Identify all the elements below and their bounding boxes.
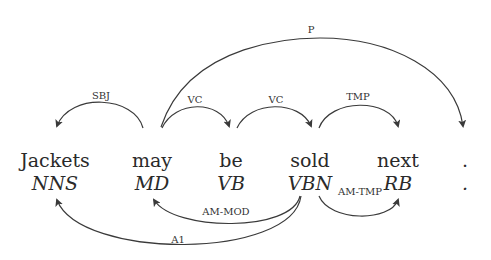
arc-label-sbj: SBJ <box>92 90 110 101</box>
arc-label-p: P <box>308 24 315 35</box>
tag-period: . <box>462 172 468 194</box>
token-may: may MD <box>132 149 172 194</box>
arc-p-line <box>161 38 463 127</box>
tag-rb: RB <box>383 172 412 194</box>
token-period: . . <box>462 149 468 194</box>
tag-md: MD <box>134 172 170 194</box>
arc-vc2-line <box>237 107 311 128</box>
dependency-diagram: Jackets NNS may MD be VB sold VBN next R… <box>0 0 491 260</box>
arc-label-tmp: TMP <box>346 91 370 102</box>
word-next: next <box>377 149 419 171</box>
word-sold: sold <box>290 149 329 171</box>
arc-am-mod: AM-MOD <box>154 196 300 224</box>
tag-nns: NNS <box>31 172 78 194</box>
arc-vc-1: VC <box>162 94 229 128</box>
arc-tmp: TMP <box>319 91 398 128</box>
arc-am-tmp-line <box>319 196 398 216</box>
arc-label-vc1: VC <box>187 94 203 105</box>
arc-sbj: SBJ <box>57 90 143 128</box>
tag-vbn: VBN <box>288 172 334 194</box>
arc-p: P <box>161 24 463 127</box>
word-may: may <box>132 149 172 171</box>
word-jackets: Jackets <box>18 149 90 171</box>
arc-vc1-line <box>162 107 229 128</box>
arc-label-a1: A1 <box>170 234 185 245</box>
token-jackets: Jackets NNS <box>18 149 90 194</box>
arc-label-am-mod: AM-MOD <box>201 206 249 217</box>
word-be: be <box>219 149 242 171</box>
token-next: next RB <box>377 149 419 194</box>
arc-sbj-line <box>57 102 143 128</box>
arc-vc-2: VC <box>237 94 311 128</box>
token-be: be VB <box>217 149 245 194</box>
arc-label-am-tmp: AM-TMP <box>337 186 382 197</box>
tag-vb: VB <box>217 172 245 194</box>
token-sold: sold VBN <box>288 149 334 194</box>
arc-label-vc2: VC <box>268 94 284 105</box>
word-period: . <box>462 149 468 171</box>
arc-tmp-line <box>319 105 398 128</box>
